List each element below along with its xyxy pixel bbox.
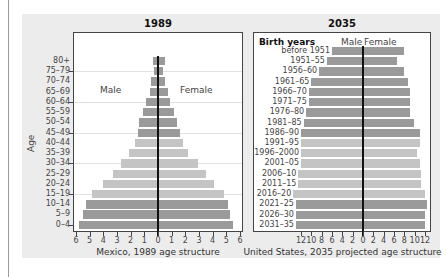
bar-male: [311, 78, 363, 86]
bar-male: [79, 221, 158, 229]
bar-female: [158, 180, 214, 188]
x-tick-label: 2: [124, 236, 138, 245]
bar-male: [129, 149, 158, 157]
bar-female: [363, 67, 404, 75]
category-label: 1996–2000: [254, 148, 299, 158]
x-tick-label: 3: [110, 236, 124, 245]
bar-male: [135, 139, 158, 147]
bar-female: [158, 139, 183, 147]
bar-male: [293, 190, 363, 198]
x-axis-caption-1989: Mexico, 1989 age structure: [73, 247, 243, 257]
bar-female: [363, 78, 408, 86]
bar-male: [304, 119, 363, 127]
x-tick-label: 5: [83, 236, 97, 245]
category-label: 80+: [26, 56, 70, 66]
bar-male: [103, 180, 158, 188]
bar-male: [86, 200, 158, 208]
bar-female: [158, 108, 174, 116]
bar-female: [363, 47, 404, 55]
x-tick-label: 1: [165, 236, 179, 245]
chart-title-2035: 2035: [253, 18, 431, 29]
y-tick: [69, 163, 73, 164]
category-label: 2031–35: [259, 220, 294, 230]
x-tick-label: 0: [151, 236, 165, 245]
category-label: 75–79: [26, 66, 70, 76]
bar-male: [298, 180, 363, 188]
category-label: 15–19: [26, 189, 70, 199]
x-tick-label: 4: [96, 236, 110, 245]
category-label: before 1951: [281, 46, 330, 56]
category-label: 1986–90: [264, 128, 299, 138]
bar-male: [301, 139, 363, 147]
x-tick-label: 5: [219, 236, 233, 245]
bar-female: [158, 190, 224, 198]
bar-male: [92, 190, 158, 198]
bar-male: [143, 108, 158, 116]
category-label: 60–64: [26, 97, 70, 107]
category-label: 50–54: [26, 117, 70, 127]
bar-female: [158, 200, 228, 208]
x-tick-label: 4: [206, 236, 220, 245]
bar-male: [309, 98, 363, 106]
y-tick: [69, 71, 73, 72]
category-label: 25–29: [26, 169, 70, 179]
bar-female: [158, 170, 206, 178]
legend-male-2035: Male: [341, 37, 362, 47]
bar-female: [363, 149, 417, 157]
bar-male: [332, 47, 363, 55]
bar-female: [158, 159, 198, 167]
x-tick-label: 6: [233, 236, 247, 245]
bar-female: [363, 98, 410, 106]
bar-female: [158, 77, 165, 85]
category-label: 55–59: [26, 107, 70, 117]
y-tick: [69, 194, 73, 195]
bar-female: [158, 98, 170, 106]
bar-female: [158, 221, 233, 229]
bar-male: [296, 221, 363, 229]
bar-male: [121, 159, 158, 167]
bar-male: [327, 57, 363, 65]
bar-male: [306, 108, 363, 116]
legend-female-2035: Female: [364, 37, 397, 47]
category-label: 2006–10: [262, 169, 297, 179]
bar-male: [319, 67, 363, 75]
category-label: 65–69: [26, 87, 70, 97]
category-label: 30–34: [26, 158, 70, 168]
bar-female: [363, 129, 420, 137]
bar-female: [363, 159, 420, 167]
category-label: 2011–15: [262, 179, 297, 189]
x-tick-label: 2: [178, 236, 192, 245]
bar-male: [113, 170, 158, 178]
bar-female: [158, 210, 230, 218]
bar-female: [363, 119, 414, 127]
bar-male: [301, 149, 363, 157]
category-label: 35–39: [26, 148, 70, 158]
category-label: 2001–05: [264, 158, 299, 168]
x-tick-label: 1: [137, 236, 151, 245]
category-label: 2021–25: [259, 199, 294, 209]
category-label: 1951–55: [290, 56, 325, 66]
bar-male: [309, 88, 363, 96]
bar-female: [363, 180, 421, 188]
x-tick-label: 6: [69, 236, 83, 245]
bar-male: [298, 170, 363, 178]
legend-male-1989: Male: [100, 85, 121, 95]
bar-female: [363, 108, 410, 116]
center-axis-line: [157, 56, 159, 236]
bar-female: [363, 211, 425, 219]
bar-male: [83, 210, 158, 218]
category-label: 2016–20: [257, 189, 292, 199]
bar-female: [158, 88, 168, 96]
category-label: 1961–65: [275, 77, 310, 87]
category-label: 1971–75: [272, 97, 307, 107]
bar-female: [158, 57, 165, 65]
bar-male: [296, 211, 363, 219]
bar-female: [158, 118, 177, 126]
bar-male: [296, 200, 363, 208]
category-label: 2026–30: [259, 210, 294, 220]
category-label: 0–4: [26, 220, 70, 230]
bar-female: [363, 200, 427, 208]
bar-female: [158, 149, 188, 157]
chart-title-1989: 1989: [73, 18, 243, 29]
bar-male: [139, 118, 158, 126]
